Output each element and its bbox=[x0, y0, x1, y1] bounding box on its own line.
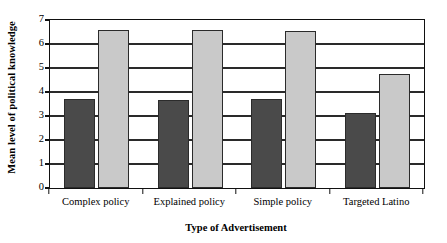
x-axis-tick-marks bbox=[49, 188, 423, 196]
bar bbox=[192, 30, 223, 188]
y-tick-label: 0 bbox=[39, 182, 44, 193]
y-tick-mark bbox=[45, 115, 50, 116]
y-tick-label: 4 bbox=[39, 86, 44, 97]
y-tick-label: 5 bbox=[39, 62, 44, 73]
x-tick-mark bbox=[142, 188, 143, 194]
y-tick-mark bbox=[45, 163, 50, 164]
x-tick-mark bbox=[329, 188, 330, 194]
x-tick-mark bbox=[235, 188, 236, 194]
bar bbox=[64, 99, 95, 188]
bar bbox=[379, 74, 410, 188]
y-tick-label: 6 bbox=[39, 38, 44, 49]
y-axis-tick-labels: 01234567 bbox=[24, 0, 46, 243]
y-tick-label: 3 bbox=[39, 110, 44, 121]
x-tick-label: Simple policy bbox=[253, 196, 312, 208]
y-tick-mark bbox=[45, 19, 50, 20]
y-tick-mark bbox=[45, 67, 50, 68]
x-tick-label: Targeted Latino bbox=[343, 196, 409, 208]
y-axis-title-text: Mean level of political knowledge bbox=[6, 21, 17, 174]
x-tick-label: Explained policy bbox=[154, 196, 225, 208]
bar bbox=[98, 30, 129, 188]
y-tick-label: 1 bbox=[39, 158, 44, 169]
x-tick-label: Complex policy bbox=[62, 196, 129, 208]
x-axis-title: Type of Advertisement bbox=[49, 222, 423, 233]
bar bbox=[285, 31, 316, 188]
plot-area bbox=[49, 19, 425, 189]
y-tick-label: 7 bbox=[39, 14, 44, 25]
bar bbox=[251, 99, 282, 188]
y-axis-title: Mean level of political knowledge bbox=[0, 0, 22, 195]
x-tick-mark bbox=[48, 188, 49, 194]
bar bbox=[345, 113, 376, 188]
y-tick-label: 2 bbox=[39, 134, 44, 145]
y-tick-mark bbox=[45, 91, 50, 92]
bar-chart-figure: Mean level of political knowledge 012345… bbox=[0, 0, 447, 243]
y-tick-mark bbox=[45, 139, 50, 140]
x-tick-mark bbox=[422, 188, 423, 194]
y-tick-mark bbox=[45, 43, 50, 44]
x-axis-tick-labels: Complex policyExplained policySimple pol… bbox=[49, 196, 423, 214]
plot-inner bbox=[50, 20, 424, 188]
bar bbox=[158, 100, 189, 188]
